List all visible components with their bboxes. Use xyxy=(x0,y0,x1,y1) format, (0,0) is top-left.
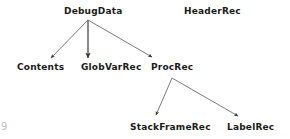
node-contents: Contents xyxy=(17,62,64,73)
edge-debugdata-procrec xyxy=(88,20,152,57)
node-globvarrec: GlobVarRec xyxy=(81,62,141,73)
node-labelrec: LabelRec xyxy=(227,122,274,133)
edge-debugdata-contents xyxy=(51,20,88,58)
node-stackframerec: StackFrameRec xyxy=(130,122,211,133)
node-debugdata: DebugData xyxy=(64,6,123,17)
edge-procrec-stackframerec xyxy=(156,78,172,115)
edge-procrec-labelrec xyxy=(172,78,238,116)
corner-artifact-glyph: 9 xyxy=(1,121,8,133)
diagram-canvas: DebugData HeaderRec Contents GlobVarRec … xyxy=(0,0,290,139)
node-headerrec: HeaderRec xyxy=(184,6,241,17)
node-procrec: ProcRec xyxy=(151,62,193,73)
